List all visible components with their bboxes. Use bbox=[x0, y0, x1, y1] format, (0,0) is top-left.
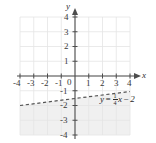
y-tick-label-4: 4 bbox=[64, 13, 69, 22]
x-tick-label--4: -4 bbox=[13, 79, 21, 88]
x-axis bbox=[17, 73, 141, 79]
equation-equals: = bbox=[104, 95, 112, 104]
equation-annotation: y = 1 4 x − 2 bbox=[100, 93, 135, 106]
y-tick-label--3: -3 bbox=[60, 116, 68, 125]
equation-minus: − bbox=[122, 95, 130, 104]
x-tick-label-4: 4 bbox=[127, 79, 132, 88]
equation-fraction: 1 4 bbox=[113, 93, 118, 106]
x-tick-label--2: -2 bbox=[41, 79, 49, 88]
y-tick-label-2: 2 bbox=[64, 42, 69, 51]
graph-figure: -4 -3 -2 -1 0 1 2 3 4 4 3 2 1 -1 -2 -3 -… bbox=[0, 0, 156, 143]
x-tick-label--3: -3 bbox=[27, 79, 35, 88]
fraction-denominator: 4 bbox=[113, 99, 118, 106]
y-tick-label--4: -4 bbox=[60, 131, 68, 140]
origin-label: 0 bbox=[67, 78, 72, 87]
equation-constant: 2 bbox=[130, 95, 135, 104]
y-tick-label--1: -1 bbox=[60, 87, 68, 96]
coordinate-plane bbox=[0, 0, 156, 143]
y-tick-label-1: 1 bbox=[64, 57, 69, 66]
x-tick-label-3: 3 bbox=[114, 79, 119, 88]
y-axis-label: y bbox=[66, 2, 70, 11]
x-tick-label-2: 2 bbox=[100, 79, 105, 88]
y-tick-label--2: -2 bbox=[60, 101, 68, 110]
x-tick-label-1: 1 bbox=[86, 79, 91, 88]
x-axis-label: x bbox=[142, 71, 146, 80]
y-tick-label-3: 3 bbox=[64, 28, 69, 37]
